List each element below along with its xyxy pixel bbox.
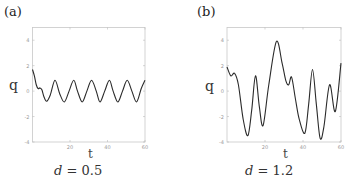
plots-canvas: -4-2024204060 -4-2024204060	[0, 0, 349, 183]
y-tick-label: -2	[219, 114, 224, 120]
y-tick-label: 0	[221, 88, 224, 94]
x-tick-label: 60	[142, 144, 148, 150]
y-tick-label: 4	[221, 37, 224, 43]
y-tick-label: 2	[26, 63, 29, 69]
x-tick-label: 60	[338, 144, 344, 150]
x-tick-label: 20	[262, 144, 268, 150]
series-line	[33, 69, 146, 101]
y-tick-label: -2	[25, 114, 30, 120]
y-tick-label: -4	[25, 139, 30, 145]
x-tick-label: 40	[104, 144, 110, 150]
x-tick-label: 20	[67, 144, 73, 150]
y-tick-label: 2	[221, 63, 224, 69]
y-tick-label: 4	[26, 37, 29, 43]
y-tick-label: 0	[26, 88, 29, 94]
plot-a: -4-2024204060	[25, 28, 149, 151]
x-tick-label: 40	[300, 144, 306, 150]
y-tick-label: -4	[219, 139, 224, 145]
series-line	[227, 41, 341, 139]
plot-b: -4-2024204060	[219, 28, 344, 151]
